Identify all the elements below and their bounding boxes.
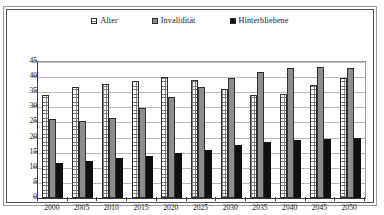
bar-alter-2050[interactable] bbox=[340, 78, 347, 198]
bar-alter-2035[interactable] bbox=[250, 95, 257, 198]
x-tick-label: 2035 bbox=[252, 203, 267, 212]
bar-hinterbliebene-2030[interactable] bbox=[235, 145, 242, 198]
bar-group bbox=[276, 62, 306, 198]
x-tick-mark bbox=[67, 197, 68, 201]
bar-hinterbliebene-2000[interactable] bbox=[56, 163, 63, 198]
x-tick-mark bbox=[126, 197, 127, 201]
bar-invaliditaet-2020[interactable] bbox=[168, 97, 175, 198]
x-tick-label: 2020 bbox=[163, 203, 178, 212]
bar-group bbox=[38, 62, 68, 198]
bar-hinterbliebene-2025[interactable] bbox=[205, 150, 212, 198]
bar-alter-2040[interactable] bbox=[280, 94, 287, 198]
bar-group bbox=[97, 62, 127, 198]
legend-label-alter: Alter bbox=[100, 16, 117, 26]
bar-hinterbliebene-2020[interactable] bbox=[175, 153, 182, 198]
bar-group bbox=[157, 62, 187, 198]
bar-invaliditaet-2025[interactable] bbox=[198, 87, 205, 198]
legend-item-alter[interactable]: Alter bbox=[91, 16, 117, 26]
plot-area bbox=[37, 61, 366, 199]
bar-invaliditaet-2045[interactable] bbox=[317, 67, 324, 198]
x-tick-label: 2005 bbox=[74, 203, 89, 212]
bar-group bbox=[127, 62, 157, 198]
bar-hinterbliebene-2005[interactable] bbox=[86, 161, 93, 198]
x-tick-mark bbox=[305, 197, 306, 201]
legend-swatch-hinterbliebene-icon bbox=[230, 18, 236, 24]
bar-invaliditaet-2010[interactable] bbox=[109, 118, 116, 198]
bar-alter-2010[interactable] bbox=[102, 84, 109, 198]
x-tick-mark bbox=[186, 197, 187, 201]
legend-swatch-alter-icon bbox=[91, 18, 97, 24]
bar-hinterbliebene-2045[interactable] bbox=[324, 139, 331, 198]
x-axis-labels: 2000200520102015202020252030203520402045… bbox=[37, 203, 364, 215]
bar-alter-2005[interactable] bbox=[72, 87, 79, 198]
bar-alter-2045[interactable] bbox=[310, 85, 317, 198]
bar-group bbox=[187, 62, 217, 198]
bar-hinterbliebene-2035[interactable] bbox=[264, 142, 271, 198]
y-axis: 051015202530354045 bbox=[7, 61, 37, 198]
bar-hinterbliebene-2010[interactable] bbox=[116, 158, 123, 198]
bar-alter-2020[interactable] bbox=[161, 77, 168, 198]
bar-invaliditaet-2035[interactable] bbox=[257, 72, 264, 198]
bar-invaliditaet-2000[interactable] bbox=[49, 119, 56, 198]
x-tick-label: 2050 bbox=[342, 203, 357, 212]
bar-alter-2015[interactable] bbox=[132, 81, 139, 198]
x-tick-label: 2000 bbox=[44, 203, 59, 212]
legend-label-invaliditaet: Invalidität bbox=[161, 16, 196, 26]
x-tick-label: 2030 bbox=[223, 203, 238, 212]
legend-swatch-invaliditaet-icon bbox=[152, 18, 158, 24]
bar-hinterbliebene-2015[interactable] bbox=[146, 156, 153, 198]
chart-legend: Alter Invalidität Hinterbliebene bbox=[7, 16, 373, 26]
x-tick-mark bbox=[275, 197, 276, 201]
x-tick-label: 2045 bbox=[312, 203, 327, 212]
x-tick-mark bbox=[334, 197, 335, 201]
x-tick-mark bbox=[215, 197, 216, 201]
bar-alter-2030[interactable] bbox=[221, 89, 228, 198]
bar-invaliditaet-2030[interactable] bbox=[228, 78, 235, 198]
x-tick-mark bbox=[156, 197, 157, 201]
x-tick-mark bbox=[37, 197, 38, 201]
bar-invaliditaet-2015[interactable] bbox=[139, 108, 146, 198]
x-tick-label: 2015 bbox=[133, 203, 148, 212]
x-tick-mark bbox=[96, 197, 97, 201]
bar-alter-2025[interactable] bbox=[191, 80, 198, 198]
bar-hinterbliebene-2040[interactable] bbox=[294, 140, 301, 198]
bar-invaliditaet-2050[interactable] bbox=[347, 68, 354, 198]
bar-group bbox=[68, 62, 98, 198]
x-tick-label: 2025 bbox=[193, 203, 208, 212]
legend-item-invaliditaet[interactable]: Invalidität bbox=[152, 16, 196, 26]
bar-hinterbliebene-2050[interactable] bbox=[354, 138, 361, 198]
bars-layer bbox=[38, 62, 365, 198]
bar-group bbox=[306, 62, 336, 198]
bar-group bbox=[335, 62, 365, 198]
bar-invaliditaet-2040[interactable] bbox=[287, 68, 294, 198]
x-tick-mark bbox=[245, 197, 246, 201]
legend-item-hinterbliebene[interactable]: Hinterbliebene bbox=[230, 16, 289, 26]
bar-group bbox=[246, 62, 276, 198]
figure-outer-frame: Alter Invalidität Hinterbliebene 0510152… bbox=[3, 6, 377, 206]
x-tick-label: 2040 bbox=[282, 203, 297, 212]
legend-label-hinterbliebene: Hinterbliebene bbox=[239, 16, 289, 26]
x-axis-ticks bbox=[37, 197, 366, 202]
bar-invaliditaet-2005[interactable] bbox=[79, 121, 86, 198]
x-tick-label: 2010 bbox=[104, 203, 119, 212]
x-tick-mark bbox=[364, 197, 365, 201]
bar-alter-2000[interactable] bbox=[42, 95, 49, 198]
bar-group bbox=[216, 62, 246, 198]
figure-inner-frame: Alter Invalidität Hinterbliebene 0510152… bbox=[6, 9, 374, 203]
